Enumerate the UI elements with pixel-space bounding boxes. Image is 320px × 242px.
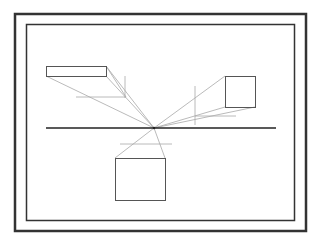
- perspective-diagram: [0, 0, 320, 242]
- background: [0, 0, 320, 242]
- vanishing-point: [153, 127, 155, 129]
